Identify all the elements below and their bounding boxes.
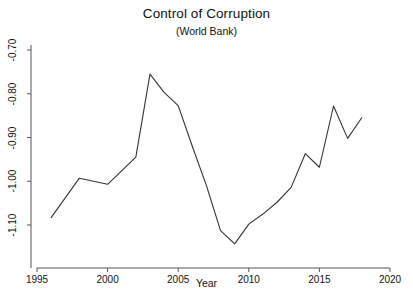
axis-lines: [31, 45, 390, 268]
chart-figure: Control of Corruption (World Bank) -0.70…: [0, 0, 413, 298]
y-tick-label: -0.90: [7, 126, 18, 149]
y-axis-ticks: [27, 50, 31, 225]
y-tick-label: -0.80: [7, 82, 18, 105]
y-tick-label: -0.70: [7, 39, 18, 62]
x-axis-ticks: [37, 268, 390, 272]
plot-area: [0, 0, 413, 298]
x-axis-label: Year: [0, 277, 413, 289]
y-tick-label: -1.00: [7, 170, 18, 193]
y-tick-label: -1.10: [7, 214, 18, 237]
data-series-line: [51, 74, 362, 244]
